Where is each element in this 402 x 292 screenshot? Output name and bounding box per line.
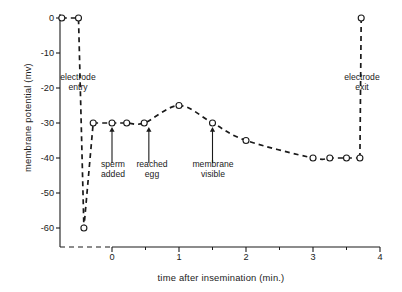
annotation-arrows xyxy=(109,127,215,163)
x-tick-label-1: 1 xyxy=(165,252,193,262)
data-point-9 xyxy=(243,138,249,144)
x-tick-label-4: 4 xyxy=(366,252,394,262)
annotation-membrane-visible: membrane visible xyxy=(178,160,248,180)
x-tick-label-0: 0 xyxy=(98,252,126,262)
annotation-electrode-exit-line2: exit xyxy=(322,83,402,93)
data-point-8 xyxy=(210,120,216,126)
annotation-electrode-entry: electrode entry xyxy=(38,73,118,93)
data-point-5 xyxy=(124,120,130,126)
data-point-7 xyxy=(176,103,182,109)
plot-area xyxy=(0,0,402,292)
data-point-2 xyxy=(81,225,87,231)
annotation-membrane-visible-line2: visible xyxy=(178,170,248,180)
data-point-3 xyxy=(90,120,96,126)
data-point-14 xyxy=(358,15,364,21)
axis-lines xyxy=(60,14,380,247)
y-tick-label-m60: -60 xyxy=(16,223,54,233)
data-point-10 xyxy=(310,155,316,161)
y-tick-label-0: 0 xyxy=(16,13,54,23)
data-point-6 xyxy=(141,120,147,126)
x-tick-label-3: 3 xyxy=(299,252,327,262)
annotation-electrode-entry-line2: entry xyxy=(38,83,118,93)
data-point-12 xyxy=(344,155,350,161)
data-point-13 xyxy=(357,155,363,161)
chart-figure: 0 -10 -20 -30 -40 -50 -60 0 1 2 3 4 memb… xyxy=(0,0,402,292)
annotation-reached-egg: reached egg xyxy=(122,160,182,180)
data-point-11 xyxy=(327,155,333,161)
annotation-reached-egg-line2: egg xyxy=(122,170,182,180)
data-point-1 xyxy=(76,15,82,21)
data-point-4 xyxy=(109,120,115,126)
y-axis-title: membrane potential (mv) xyxy=(22,38,33,198)
annotation-electrode-exit: electrode exit xyxy=(322,73,402,93)
x-tick-label-2: 2 xyxy=(232,252,260,262)
axis-ticks xyxy=(56,18,380,252)
x-axis-title: time after insemination (min.) xyxy=(60,272,382,283)
data-point-0 xyxy=(59,15,65,21)
